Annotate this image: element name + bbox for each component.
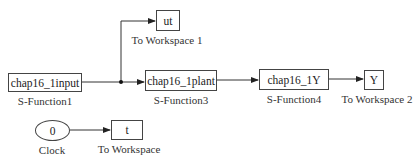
clock-block-text: 0: [50, 125, 56, 137]
sfunction1-block-text: chap16_1input: [11, 77, 79, 89]
to-workspace2-block-text: Y: [370, 74, 378, 86]
simulink-diagram: chap16_1input S-Function1 ut To Workspac…: [0, 0, 418, 164]
to-workspace1-block-text: ut: [164, 15, 173, 27]
sfunction3-block-text: chap16_1plant: [147, 75, 215, 87]
clock-block[interactable]: 0: [35, 120, 70, 141]
to-workspace2-label: To Workspace 2: [342, 93, 413, 105]
clock-label: Clock: [39, 144, 65, 156]
to-workspace1-block[interactable]: ut: [156, 10, 180, 31]
sfunction4-label: S-Function4: [267, 93, 321, 105]
sfunction4-block-text: chap16_1Y: [267, 74, 320, 86]
sfunction3-block[interactable]: chap16_1plant: [145, 70, 217, 91]
sfunction3-label: S-Function3: [154, 94, 208, 106]
sfunction4-block[interactable]: chap16_1Y: [259, 69, 329, 90]
to-workspace2-block[interactable]: Y: [364, 70, 384, 90]
sfunction1-label: S-Function1: [18, 95, 72, 107]
to-workspace-block-text: t: [125, 124, 128, 136]
to-workspace1-label: To Workspace 1: [132, 34, 203, 46]
to-workspace-block[interactable]: t: [111, 120, 143, 140]
to-workspace-label: To Workspace: [98, 143, 161, 155]
sfunction1-block[interactable]: chap16_1input: [8, 73, 82, 92]
branch-junction-dot: [119, 80, 123, 84]
